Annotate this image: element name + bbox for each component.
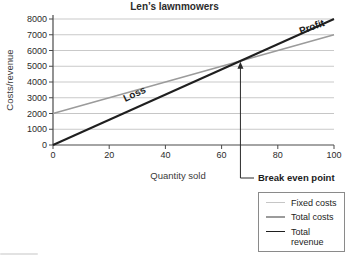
break-even-label: Break even point [258, 172, 335, 183]
y-tick-label: 2000 [27, 109, 47, 119]
legend-label: Total revenue [291, 227, 340, 248]
legend-item-fixed-costs: Fixed costs [266, 198, 340, 208]
y-tick-label: 4000 [27, 77, 47, 87]
profit-region-label: Profit [298, 17, 327, 36]
y-tick-label: 5000 [27, 61, 47, 71]
y-tick-label: 1000 [27, 124, 47, 134]
x-tick-label: 20 [104, 150, 114, 160]
x-tick-label: 100 [326, 150, 341, 160]
legend-item-total-costs: Total costs [266, 212, 340, 222]
total-costs-swatch [266, 216, 285, 217]
x-tick-label: 80 [273, 150, 283, 160]
total-costs-line [53, 35, 334, 114]
x-tick-label: 40 [160, 150, 170, 160]
legend-label: Total costs [291, 212, 340, 222]
legend-label: Fixed costs [291, 198, 340, 208]
legend: Fixed costs Total costs Total revenue [258, 192, 345, 252]
break-even-chart: Len’s lawnmowers Costs/revenue 010002000… [0, 0, 349, 256]
total-revenue-swatch [266, 231, 285, 233]
page-edge-artifact [0, 253, 38, 255]
fixed-costs-swatch [266, 202, 285, 203]
y-tick-label: 0 [42, 140, 47, 150]
x-tick-label: 0 [50, 150, 55, 160]
loss-region-label: Loss [122, 84, 148, 104]
y-tick-label: 7000 [27, 30, 47, 40]
x-tick-label: 60 [217, 150, 227, 160]
y-tick-label: 3000 [27, 93, 47, 103]
legend-item-total-revenue: Total revenue [266, 227, 340, 248]
y-tick-label: 6000 [27, 46, 47, 56]
y-tick-label: 8000 [27, 14, 47, 24]
